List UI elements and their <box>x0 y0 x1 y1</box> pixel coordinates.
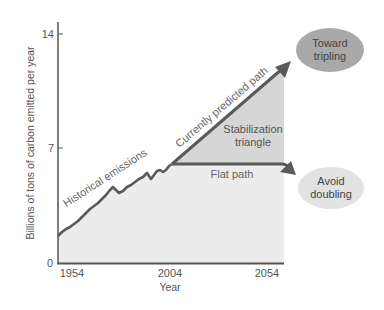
flat-path-label: Flat path <box>211 168 254 180</box>
triangle-label-line1: Stabilization <box>223 123 282 135</box>
toward-tripling-line1: Toward <box>312 37 347 49</box>
x-tick-label-2004: 2004 <box>158 267 182 279</box>
x-tick-label-1954: 1954 <box>60 267 84 279</box>
y-axis-title: Billions of tons of carbon emitted per y… <box>24 46 36 240</box>
triangle-label-line2: triangle <box>235 136 271 148</box>
y-tick-label-0: 0 <box>47 257 53 269</box>
y-tick-label-14: 14 <box>42 28 54 40</box>
avoid-doubling-line2: doubling <box>310 188 352 200</box>
x-axis-title: Year <box>159 281 181 293</box>
y-tick-label-7: 7 <box>48 142 54 154</box>
toward-tripling-line2: tripling <box>314 50 346 62</box>
chart: 14 7 0 1954 2004 2054 Year Billions of t… <box>0 0 384 310</box>
avoid-doubling-line1: Avoid <box>317 175 344 187</box>
x-tick-label-2054: 2054 <box>255 267 279 279</box>
